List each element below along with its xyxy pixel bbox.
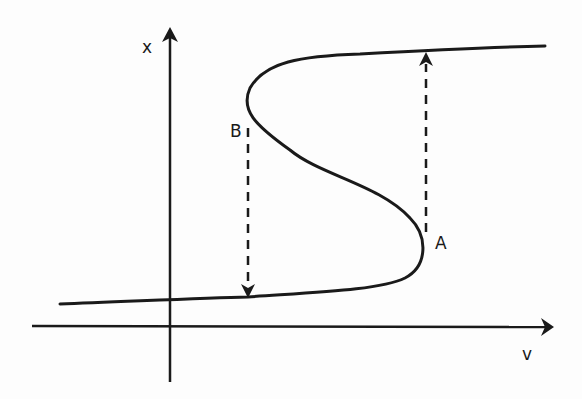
jump-up-arrow <box>419 52 433 232</box>
hysteresis-diagram: x v B A <box>0 0 582 399</box>
jump-down-arrow <box>241 128 255 298</box>
diagram-svg: x v B A <box>0 0 582 399</box>
x-axis-label: x <box>142 37 152 57</box>
s-curve <box>60 46 545 304</box>
v-axis-label: v <box>522 344 532 364</box>
arrow-up-icon <box>419 52 433 66</box>
x-axis <box>162 27 178 382</box>
point-a-label: A <box>435 233 447 253</box>
v-axis <box>32 318 554 336</box>
point-b-label: B <box>230 121 242 141</box>
